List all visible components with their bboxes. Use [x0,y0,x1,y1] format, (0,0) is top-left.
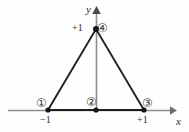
diagram-canvas [0,0,189,132]
node-badge-4: ④ [97,22,108,34]
x-axis-arrow-icon [170,106,177,115]
node-badge-1: ① [36,97,47,109]
node-badge-3: ③ [142,97,153,109]
tick-label-x-plus-one: +1 [137,115,148,125]
tick-label-x-minus-one: −1 [40,115,51,125]
node-badge-2: ② [86,96,97,108]
y-axis-arrow-icon [92,6,101,14]
tick-label-y-plus-one: +1 [72,23,83,33]
geometry-figure: y x +1 −1 +1 ① ② ③ ④ [0,0,189,132]
y-axis-label: y [86,4,91,15]
x-axis-label: x [176,116,181,127]
